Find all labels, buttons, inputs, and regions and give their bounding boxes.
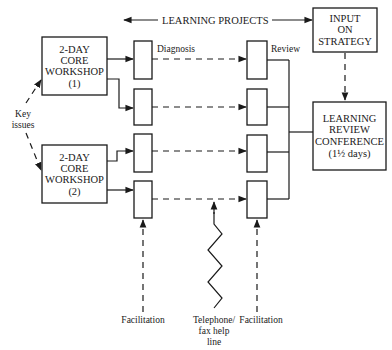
key-issues-to-workshop2-arrow [26,133,41,170]
diagnosis-box-2 [134,89,152,125]
diagnosis-label: Diagnosis [157,44,195,54]
key-issues-to-workshop1-arrow [26,80,41,103]
zigzag-icon [208,212,222,308]
learning-projects-header: LEARNING PROJECTS [124,15,312,26]
telephone-line1: Telephone/ [193,315,235,325]
diagnosis-box-1 [134,41,152,79]
conference-line3: CONFERENCE [315,136,384,147]
workshop2-line4: (2) [68,186,81,198]
conference-line2: REVIEW [329,124,370,135]
review-box-3 [247,135,267,172]
workshop2-line1: 2-DAY [59,152,90,163]
facilitation-left-label: Facilitation [121,315,165,325]
workshop2-line2: CORE [60,163,88,174]
review-box-1 [247,41,267,79]
review-label: Review [271,44,300,54]
diagnosis-box-4 [134,181,152,218]
conference-line1: LEARNING [323,113,377,124]
workshop1-line2: CORE [60,55,88,66]
learning-projects-label: LEARNING PROJECTS [162,15,269,26]
workshop1-line1: 2-DAY [59,44,90,55]
learning-review-conference-box: LEARNING REVIEW CONFERENCE (1½ days) [313,102,386,170]
telephone-line3: line [207,337,221,347]
telephone-help-line: Telephone/ fax help line [193,202,235,347]
learning-projects-diagram: LEARNING PROJECTS INPUT ON STRATEGY LEAR… [0,0,392,350]
input-line1: INPUT [330,13,362,24]
workshop1-line3: WORKSHOP [45,66,104,77]
conference-line4: (1½ days) [329,148,371,160]
telephone-line2: fax help [199,326,230,336]
input-on-strategy-box: INPUT ON STRATEGY [313,8,377,52]
key-issues-line1: Key [15,109,31,119]
facilitation-right-label: Facilitation [239,315,283,325]
diagnosis-box-3 [134,134,152,172]
input-line3: STRATEGY [318,36,372,47]
core-workshop-2-box: 2-DAY CORE WORKSHOP (2) [42,145,107,203]
w2-to-diag3-arrow [107,151,133,161]
review-to-conference-connector [267,60,313,199]
workshop2-line3: WORKSHOP [45,174,104,185]
core-workshop-1-box: 2-DAY CORE WORKSHOP (1) [42,37,107,95]
key-issues: Key issues [12,80,41,170]
w1-to-diag2-arrow [107,79,133,108]
workshop1-line4: (1) [68,78,81,90]
key-issues-line2: issues [12,120,35,130]
review-box-2 [247,89,267,125]
input-line2: ON [337,24,353,35]
review-box-4 [247,181,267,218]
